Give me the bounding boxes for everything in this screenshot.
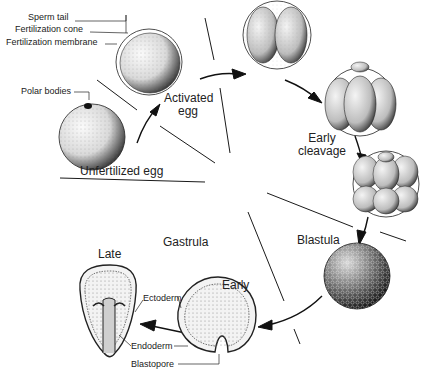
polar-bodies-marker — [84, 103, 92, 109]
unfertilized-egg-illustration — [59, 103, 125, 170]
two-cell-embryo-illustration — [243, 1, 311, 69]
activated-egg-label-line2: egg — [164, 105, 212, 117]
early-cleavage-label-line2: cleavage — [292, 145, 352, 157]
ectoderm-label: Ectoderm — [143, 294, 182, 303]
endoderm-label: Endoderm — [131, 342, 173, 351]
late-gastrula-label: Late — [98, 248, 121, 260]
gastrula-label: Gastrula — [163, 236, 208, 248]
fertilization-cone-label: Fertilization cone — [15, 25, 83, 34]
sperm-tail-label: Sperm tail — [28, 13, 69, 22]
activated-egg-label-line1: Activated — [164, 92, 212, 104]
early-gastrula-label: Early — [222, 279, 249, 291]
early-cleavage-label: Early cleavage — [292, 132, 352, 157]
blastula-label: Blastula — [297, 234, 340, 246]
early-cleavage-label-line1: Early — [292, 132, 352, 144]
activated-egg-illustration — [116, 29, 182, 95]
blastopore-label: Blastopore — [131, 360, 174, 369]
fertilization-membrane-label: Fertilization membrane — [6, 38, 98, 47]
diagram-canvas — [0, 0, 430, 376]
activated-egg-label: Activated egg — [164, 92, 212, 117]
unfertilized-egg-label: Unfertilized egg — [80, 165, 163, 177]
blastula-illustration — [324, 243, 390, 309]
eight-cell-embryo-illustration — [353, 151, 419, 217]
four-cell-embryo-illustration — [325, 62, 396, 136]
polar-bodies-label: Polar bodies — [21, 87, 71, 96]
polar-bodies-leader — [74, 92, 89, 100]
